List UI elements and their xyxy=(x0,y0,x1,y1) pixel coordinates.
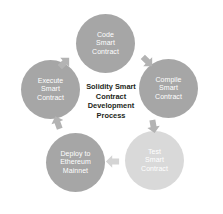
node-deploy-to-ethereum-mainnet: Deploy to Ethereum Mainnet xyxy=(46,133,105,192)
arrow-icon-compile-to-test xyxy=(145,118,162,135)
cycle-diagram: Code Smart Contract Compile Smart Contra… xyxy=(9,9,212,203)
node-test-label: Test Smart Contract xyxy=(138,148,171,174)
node-execute-label: Execute Smart Contract xyxy=(34,77,67,103)
node-test-smart-contract: Test Smart Contract xyxy=(125,131,184,190)
node-deploy-label: Deploy to Ethereum Mainnet xyxy=(57,150,94,176)
node-code-label: Code Smart Contract xyxy=(89,31,122,57)
diagram-center-title: Solidity Smart Contract Development Proc… xyxy=(63,82,159,120)
node-code-smart-contract: Code Smart Contract xyxy=(76,14,135,73)
diagram-frame: Code Smart Contract Compile Smart Contra… xyxy=(9,9,212,203)
arrow-icon-test-to-deploy xyxy=(105,154,120,169)
